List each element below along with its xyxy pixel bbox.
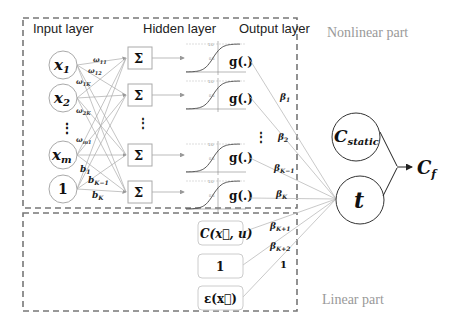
hidden-node-k-1: Σ — [128, 144, 152, 166]
sigmoid-tick-top: 1.0 — [208, 42, 214, 47]
sigmoid-tick-mid: 0.5 — [209, 156, 215, 161]
sigmoid-tick-mid: 0.5 — [209, 93, 215, 98]
beta-k: βK — [275, 189, 288, 200]
sigmoid-tick-top: 1.0 — [208, 179, 214, 184]
svg-text:1: 1 — [216, 260, 224, 274]
weight-w1K: ω1K — [76, 77, 91, 87]
weight-w11: ω11 — [93, 55, 107, 65]
activation-label-2: g(.) — [229, 92, 253, 106]
sigmoid-tick-top: 1.0 — [208, 142, 214, 147]
weight-w2K: ω2K — [76, 106, 91, 116]
beta-2: β2 — [277, 132, 288, 143]
input-node-bias: 1 — [49, 175, 77, 203]
hidden-to-activation-arrows — [152, 58, 184, 192]
beta-k-1: βK−1 — [273, 163, 294, 174]
svg-text:Σ: Σ — [134, 148, 143, 163]
input-node-x1: x1 — [49, 51, 77, 79]
input-ellipsis: ⋮ — [60, 120, 74, 136]
hidden-node-k: Σ — [128, 181, 152, 203]
sigmoid-tick-top: 1.0 — [208, 79, 214, 84]
t-node: t — [336, 176, 384, 224]
activation-label-k-1: g(.) — [229, 151, 253, 165]
activation-ellipsis: ⋮ — [255, 130, 267, 144]
output-layer-label: Output layer — [239, 21, 310, 36]
linear-term-epsilon: ε(x⃗) — [198, 286, 243, 310]
svg-text:ε(x⃗): ε(x⃗) — [204, 292, 237, 306]
hidden-node-2: Σ — [128, 84, 152, 106]
svg-text:1: 1 — [58, 181, 68, 197]
nonlinear-part-label: Nonlinear part — [327, 25, 408, 40]
svg-text:Σ: Σ — [134, 51, 143, 66]
activation-label-k: g(.) — [229, 189, 253, 203]
cf-output-label: Cf — [417, 157, 438, 181]
svg-text:C(x⃗, u): C(x⃗, u) — [200, 227, 252, 241]
input-layer-label: Input layer — [33, 21, 94, 36]
linear-term-c: C(x⃗, u) — [198, 221, 252, 245]
beta-k+1: βK+1 — [269, 221, 290, 232]
weight-w12: ω12 — [88, 66, 102, 76]
linear-weight-one: 1 — [280, 259, 287, 270]
beta-1: β1 — [279, 92, 290, 103]
linear-part-label: Linear part — [322, 292, 384, 307]
svg-text:t: t — [354, 187, 364, 213]
input-node-x2: x2 — [49, 84, 77, 112]
svg-text:Σ: Σ — [134, 88, 143, 103]
sigmoid-tick-mid: 0.5 — [209, 193, 215, 198]
input-node-xm: xm — [49, 141, 77, 169]
combine-arrows — [380, 132, 412, 196]
hidden-layer-label: Hidden layer — [143, 21, 217, 36]
hidden-node-1: Σ — [128, 47, 152, 69]
hidden-ellipsis: ⋮ — [137, 116, 149, 130]
svg-text:Σ: Σ — [134, 185, 143, 200]
bias-bK: bK — [92, 190, 104, 201]
neural-network-diagram: Nonlinear part Linear part Input layer H… — [0, 0, 457, 328]
sigmoid-tick-mid: 0.5 — [209, 56, 215, 61]
weight-wm1: ωm1 — [76, 135, 91, 145]
beta-k+2: βK+2 — [269, 241, 290, 252]
linear-term-one: 1 — [198, 254, 243, 278]
activation-label-1: g(.) — [229, 55, 253, 69]
c-static-node: Cstatic — [332, 113, 380, 161]
